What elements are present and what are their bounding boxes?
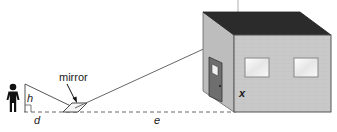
h-label: h <box>27 92 33 104</box>
mirror-label: mirror <box>59 71 88 83</box>
arrow-icon <box>67 84 77 103</box>
e-label: e <box>154 114 160 126</box>
x-label: x <box>238 87 246 99</box>
d-label: d <box>34 114 41 126</box>
building-window-left <box>245 58 269 77</box>
right-angle-marker <box>25 105 31 112</box>
door-knob <box>219 85 221 87</box>
mirror-height-diagram: mirror h d e x <box>0 0 337 132</box>
building-window-right <box>294 58 318 77</box>
person-icon <box>7 84 20 112</box>
building-door <box>209 57 222 102</box>
